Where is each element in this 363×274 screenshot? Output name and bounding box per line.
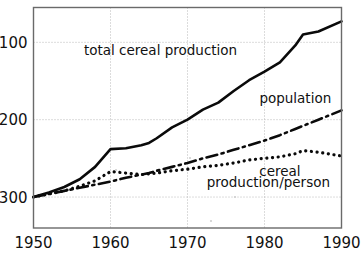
x-tick-label-1990: 1990 [322, 234, 360, 252]
chart-canvas: 300 200 100 1950 1960 1970 1980 1990 tot… [0, 0, 363, 274]
y-tick-label-200: 200 [0, 111, 28, 129]
annotation-total-cereal-production: total cereal production [84, 42, 237, 58]
annotation-population: population [259, 90, 331, 106]
speck-3 [210, 220, 212, 222]
line-chart: 300 200 100 1950 1960 1970 1980 1990 tot… [0, 0, 363, 274]
speck-2 [189, 157, 191, 159]
speck-4 [234, 196, 236, 198]
x-tick-label-1960: 1960 [91, 234, 129, 252]
y-tick-label-300: 300 [0, 189, 28, 207]
chart-background [0, 0, 363, 274]
speck-1 [115, 169, 117, 171]
annotation-production-per-person: production/person [207, 174, 330, 190]
x-tick-label-1970: 1970 [168, 234, 206, 252]
x-tick-label-1950: 1950 [14, 234, 52, 252]
x-tick-label-1980: 1980 [245, 234, 283, 252]
y-tick-label-100: 100 [0, 34, 28, 52]
